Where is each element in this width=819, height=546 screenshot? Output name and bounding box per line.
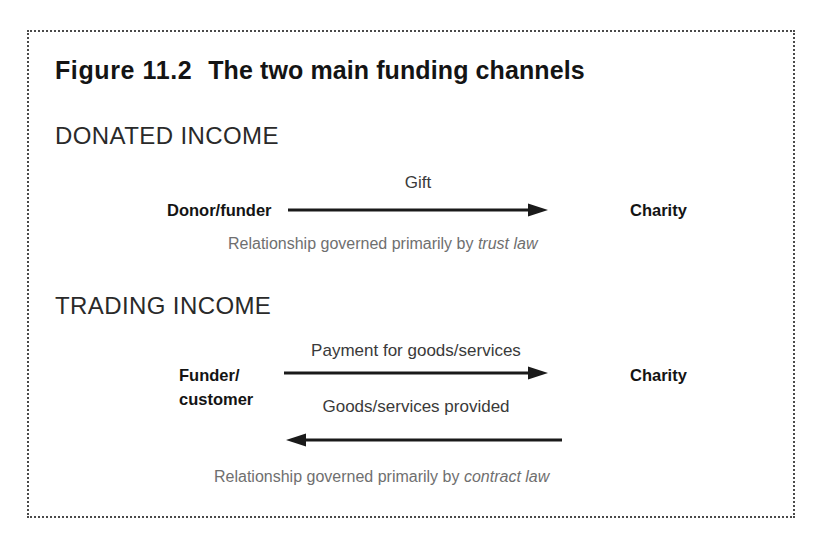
arrow-goods-left <box>286 433 562 447</box>
arrow-label-payment-for-goods-services: Payment for goods/services <box>285 341 547 361</box>
section-heading-trading-income: TRADING INCOME <box>55 292 271 320</box>
figure-number: Figure 11.2 <box>55 56 192 84</box>
node-label-charity-trading: Charity <box>630 363 687 387</box>
caption-donated-income: Relationship governed primarily by trust… <box>228 235 537 253</box>
caption-trading-prefix: Relationship governed primarily by <box>214 468 464 485</box>
caption-donated-prefix: Relationship governed primarily by <box>228 235 478 252</box>
arrow-payment-right <box>284 366 548 380</box>
figure-title: Figure 11.2The two main funding channels <box>55 56 585 85</box>
caption-trading-income: Relationship governed primarily by contr… <box>214 468 549 486</box>
node-label-donor-funder: Donor/funder <box>167 198 272 222</box>
node-label-funder-line1: Funder/ <box>179 366 240 384</box>
arrow-label-goods-services-provided: Goods/services provided <box>285 397 547 417</box>
figure-title-text: The two main funding channels <box>208 56 585 84</box>
node-label-funder-customer: Funder/customer <box>179 363 253 411</box>
caption-donated-emphasis: trust law <box>478 235 538 252</box>
caption-trading-emphasis: contract law <box>464 468 549 485</box>
node-label-charity-donated: Charity <box>630 198 687 222</box>
arrow-label-gift: Gift <box>290 173 546 193</box>
section-heading-donated-income: DONATED INCOME <box>55 122 279 150</box>
node-label-funder-line2: customer <box>179 390 253 408</box>
arrow-gift-right <box>288 203 548 217</box>
